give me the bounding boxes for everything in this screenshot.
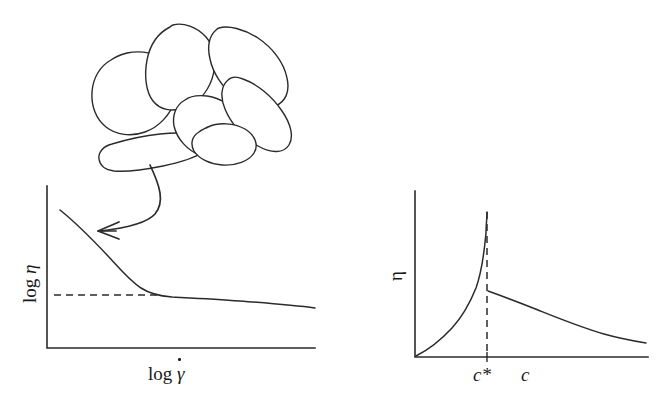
gamma-glyph: γ	[177, 363, 185, 384]
left-chart-axes	[47, 186, 315, 348]
left-chart	[47, 186, 315, 348]
right-chart-tick-label-cstar: c*	[473, 365, 491, 384]
left-chart-flow-curve	[60, 210, 315, 308]
right-chart-axis-variable-label: c	[521, 365, 529, 384]
right-chart	[415, 191, 648, 362]
right-chart-y-axis-label: η	[386, 271, 405, 281]
blob-bottom-right	[192, 124, 256, 165]
left-x-label-symbol: γ	[177, 364, 185, 383]
right-chart-rise-curve	[416, 212, 487, 356]
right-chart-decay-curve	[488, 291, 646, 343]
left-x-label-prefix: log	[148, 363, 172, 384]
left-chart-x-axis-label: log γ	[148, 364, 185, 383]
right-chart-axes	[415, 191, 648, 357]
arrow-shaft	[101, 165, 160, 231]
left-y-label-prefix: log	[19, 279, 40, 303]
particle-cluster-illustration	[92, 24, 292, 171]
scientific-figure: log η log γ η c* c	[0, 0, 663, 403]
cstar-text: c*	[473, 364, 491, 385]
left-y-label-symbol: η	[19, 265, 40, 274]
gamma-dot-icon	[178, 358, 181, 361]
figure-canvas	[0, 0, 663, 403]
annotation-arrow	[98, 165, 160, 239]
left-chart-y-axis-label: log η	[20, 265, 39, 303]
